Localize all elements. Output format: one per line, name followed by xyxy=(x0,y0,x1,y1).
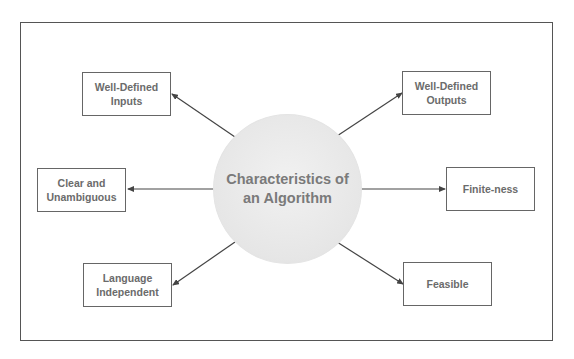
arrow-to-well-defined-inputs xyxy=(172,94,235,137)
node-label: Well-Defined Outputs xyxy=(415,79,478,107)
node-language-independent: Language Independent xyxy=(83,263,172,307)
center-concept-label: Characteristics of an Algorithm xyxy=(226,170,349,208)
arrow-to-feasible xyxy=(337,242,403,284)
node-well-defined-inputs: Well-Defined Inputs xyxy=(82,72,171,116)
node-label: Well-Defined Inputs xyxy=(95,80,158,108)
node-label: Feasible xyxy=(426,277,468,291)
node-feasible: Feasible xyxy=(403,262,492,306)
center-concept-circle: Characteristics of an Algorithm xyxy=(213,114,362,264)
arrow-to-well-defined-outputs xyxy=(337,93,402,136)
arrow-to-language-independent xyxy=(173,242,235,285)
node-clear-and-unambiguous: Clear and Unambiguous xyxy=(37,168,126,212)
node-label: Finite-ness xyxy=(463,182,518,196)
node-well-defined-outputs: Well-Defined Outputs xyxy=(402,71,491,115)
node-label: Clear and Unambiguous xyxy=(47,176,117,204)
node-finite-ness: Finite-ness xyxy=(446,167,535,211)
node-label: Language Independent xyxy=(96,271,158,299)
